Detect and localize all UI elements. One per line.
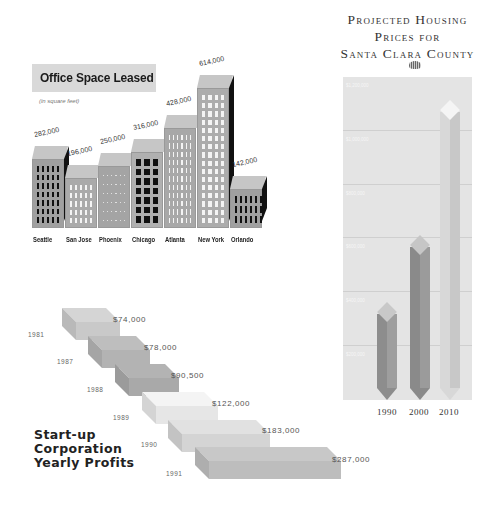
window (260, 216, 262, 223)
window (190, 160, 191, 165)
window (80, 210, 82, 215)
window (208, 120, 211, 125)
window (215, 103, 218, 108)
window (202, 161, 205, 166)
window (153, 197, 158, 204)
office-chart-title: Office Space Leased (40, 70, 154, 85)
building-roof (32, 146, 68, 159)
window (153, 169, 158, 176)
window (90, 193, 92, 198)
window (103, 211, 104, 212)
window (115, 193, 116, 194)
profits-chart-title: Start-up Corporation Yearly Profits (34, 428, 134, 470)
window (215, 144, 218, 149)
building-front (164, 128, 196, 228)
window (169, 176, 170, 181)
window (240, 216, 242, 223)
window (75, 185, 77, 190)
profit-value-label: $90,500 (171, 371, 204, 380)
window (215, 95, 218, 100)
window (169, 152, 170, 157)
window (208, 169, 211, 174)
window (202, 144, 205, 149)
building-roof (98, 153, 134, 166)
profits-title-line-2: Corporation (34, 442, 134, 456)
window (136, 188, 141, 195)
window (85, 210, 87, 215)
window (153, 207, 158, 214)
window (136, 159, 141, 166)
window (124, 211, 125, 212)
window (42, 192, 44, 198)
window (202, 152, 205, 157)
window (144, 169, 149, 176)
profit-value-label: $183,000 (262, 426, 300, 435)
window (103, 184, 104, 185)
window (111, 175, 112, 176)
window (221, 193, 224, 198)
window (80, 218, 82, 223)
window (124, 220, 125, 221)
window (208, 136, 211, 141)
window (103, 175, 104, 176)
window (202, 128, 205, 133)
bar-right-face (387, 314, 397, 388)
bar-right-face (420, 247, 430, 388)
window (186, 201, 187, 206)
window (124, 184, 125, 185)
window (215, 177, 218, 182)
window (169, 168, 170, 173)
window (202, 193, 205, 198)
window (169, 201, 170, 206)
window-grid (103, 173, 125, 223)
window (221, 144, 224, 149)
building-value-label: 282,000 (34, 126, 60, 138)
window (70, 201, 72, 206)
window (177, 185, 178, 190)
building-roof (164, 115, 200, 128)
housing-bar-2000 (410, 247, 430, 388)
window (177, 201, 178, 206)
window (208, 193, 211, 198)
window (52, 217, 54, 223)
window (107, 211, 108, 212)
window (221, 169, 224, 174)
window (37, 192, 39, 198)
window (47, 175, 49, 181)
window (120, 202, 121, 203)
window (47, 183, 49, 189)
window (47, 166, 49, 172)
bar-bottom-point (410, 388, 430, 400)
window (70, 185, 72, 190)
building-value-label: 428,000 (166, 95, 192, 107)
window (111, 184, 112, 185)
window (120, 220, 121, 221)
window (115, 175, 116, 176)
window (190, 143, 191, 148)
window (202, 136, 205, 141)
window (235, 206, 237, 213)
window (173, 209, 174, 214)
window (90, 210, 92, 215)
window (173, 152, 174, 157)
window (47, 217, 49, 223)
window (186, 193, 187, 198)
window (181, 168, 182, 173)
window (173, 201, 174, 206)
window (37, 209, 39, 215)
year-label-2000: 2000 (409, 407, 429, 417)
window (215, 152, 218, 157)
window (186, 218, 187, 223)
window (235, 196, 237, 203)
building-atlanta (164, 128, 196, 228)
window (80, 201, 82, 206)
building-front (65, 178, 97, 228)
window (85, 185, 87, 190)
window (260, 196, 262, 203)
profit-year-label: 1987 (57, 358, 73, 365)
housing-chart-title: Projected Housing Prices for Santa Clara… (320, 11, 495, 62)
window (107, 184, 108, 185)
window (52, 166, 54, 172)
housing-chart-panel: $1,200,000$1,000,000$800,000$600,000$400… (343, 77, 472, 400)
window (250, 206, 252, 213)
